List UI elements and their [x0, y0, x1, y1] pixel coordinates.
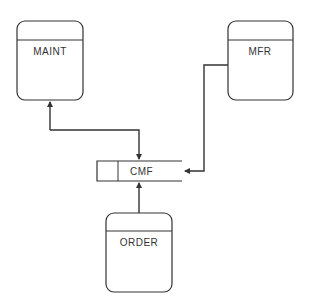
- process-label: MFR: [248, 46, 271, 57]
- process-maint[interactable]: MAINT: [17, 21, 83, 100]
- process-order[interactable]: ORDER: [106, 213, 172, 292]
- flow-cmf-maint: [50, 102, 139, 159]
- flow-mfr-cmf: [185, 65, 228, 171]
- process-mfr[interactable]: MFR: [228, 21, 293, 100]
- process-label: MAINT: [33, 46, 67, 57]
- datastore-label: CMF: [130, 166, 153, 177]
- process-label: ORDER: [120, 237, 159, 248]
- arrow-down-icon: [50, 130, 139, 159]
- arrow-left-icon: [185, 65, 228, 171]
- diagram-canvas: MAINT MFR CMF ORDER: [0, 0, 309, 306]
- datastore-cmf[interactable]: CMF: [97, 161, 182, 181]
